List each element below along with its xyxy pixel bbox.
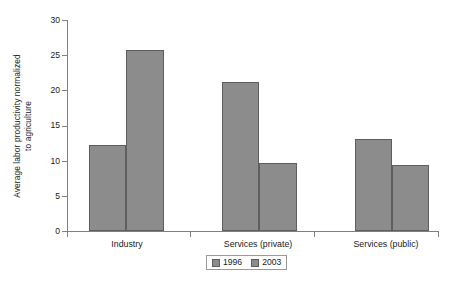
legend-item-1996: 1996 bbox=[212, 258, 242, 267]
legend-swatch-1996 bbox=[212, 259, 220, 267]
x-category-label-industry: Industry bbox=[87, 239, 167, 250]
y-tick-label-10: 10 bbox=[38, 157, 60, 166]
bar-services-private-1996 bbox=[222, 82, 259, 231]
y-axis-title: Average labor productivity normalized to… bbox=[8, 18, 38, 233]
x-tick-mark-2 bbox=[314, 232, 315, 237]
plot-area bbox=[67, 20, 439, 231]
x-tick-mark-1 bbox=[190, 232, 191, 237]
bar-industry-2003 bbox=[126, 50, 164, 231]
y-axis-title-line-1: Average labor productivity normalized bbox=[12, 54, 22, 198]
bar-services-private-2003 bbox=[259, 163, 297, 231]
legend-swatch-2003 bbox=[251, 259, 259, 267]
bar-services-public-1996 bbox=[355, 139, 392, 231]
y-tick-label-5: 5 bbox=[38, 192, 60, 201]
y-tick-label-15: 15 bbox=[38, 121, 60, 130]
y-axis-title-line-2: to agriculture bbox=[23, 54, 34, 198]
x-axis-line bbox=[67, 231, 439, 232]
legend: 1996 2003 bbox=[206, 255, 287, 270]
y-tick-label-20: 20 bbox=[38, 86, 60, 95]
x-tick-mark-0 bbox=[67, 232, 68, 237]
x-tick-mark-3 bbox=[438, 232, 439, 237]
x-category-label-services-public: Services (public) bbox=[331, 239, 441, 250]
bar-services-public-2003 bbox=[392, 165, 429, 231]
y-tick-label-0: 0 bbox=[38, 227, 60, 236]
legend-item-2003: 2003 bbox=[251, 258, 281, 267]
bar-industry-1996 bbox=[89, 145, 126, 231]
x-category-label-services-private: Services (private) bbox=[203, 239, 313, 250]
legend-label-2003: 2003 bbox=[262, 258, 281, 267]
bar-chart: Average labor productivity normalized to… bbox=[0, 0, 467, 286]
y-tick-label-25: 25 bbox=[38, 51, 60, 60]
legend-label-1996: 1996 bbox=[223, 258, 242, 267]
y-tick-label-30: 30 bbox=[38, 16, 60, 25]
